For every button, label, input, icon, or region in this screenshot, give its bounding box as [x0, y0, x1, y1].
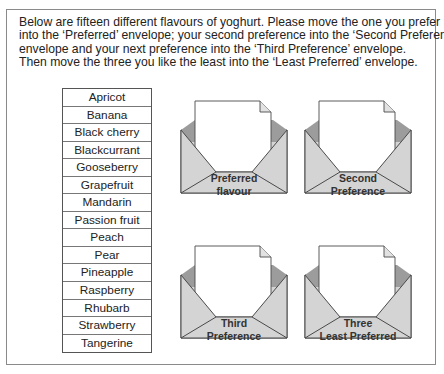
flavour-list: Apricot Banana Black cherry Blackcurrant…: [62, 88, 152, 353]
envelope-third-preference[interactable]: Third Preference: [180, 245, 288, 340]
envelope-label-line: Three: [304, 317, 412, 330]
flavour-item-raspberry[interactable]: Raspberry: [63, 282, 151, 300]
envelope-label-line: Third: [180, 317, 288, 330]
envelope-label: Second Preference: [304, 172, 412, 197]
flavour-item-peach[interactable]: Peach: [63, 229, 151, 247]
flavour-item-gooseberry[interactable]: Gooseberry: [63, 159, 151, 177]
envelope-label-line: Second: [304, 172, 412, 185]
instruction-line: Below are fifteen different flavours of …: [19, 16, 434, 29]
instruction-line: into the ‘Preferred’ envelope; your seco…: [19, 29, 434, 42]
flavour-item-apricot[interactable]: Apricot: [63, 89, 151, 107]
flavour-item-grapefruit[interactable]: Grapefruit: [63, 177, 151, 195]
envelope-label-line: Preference: [180, 330, 288, 343]
flavour-item-black-cherry[interactable]: Black cherry: [63, 124, 151, 142]
envelope-label-line: Preference: [304, 185, 412, 198]
flavour-item-tangerine[interactable]: Tangerine: [63, 335, 151, 353]
envelope-label-line: Preferred: [180, 172, 288, 185]
envelope-least-preferred[interactable]: Three Least Preferred: [304, 245, 412, 340]
instructions-text: Below are fifteen different flavours of …: [19, 16, 434, 70]
flavour-item-passion-fruit[interactable]: Passion fruit: [63, 212, 151, 230]
flavour-item-banana[interactable]: Banana: [63, 107, 151, 125]
flavour-item-pear[interactable]: Pear: [63, 247, 151, 265]
flavour-item-blackcurrant[interactable]: Blackcurrant: [63, 142, 151, 160]
flavour-item-rhubarb[interactable]: Rhubarb: [63, 300, 151, 318]
envelope-second-preference[interactable]: Second Preference: [304, 100, 412, 195]
envelope-label-line: flavour: [180, 185, 288, 198]
instruction-line: envelope and your next preference into t…: [19, 43, 434, 56]
flavour-item-strawberry[interactable]: Strawberry: [63, 317, 151, 335]
flavour-item-mandarin[interactable]: Mandarin: [63, 194, 151, 212]
envelope-label: Three Least Preferred: [304, 317, 412, 342]
flavour-item-pineapple[interactable]: Pineapple: [63, 264, 151, 282]
instruction-line: Then move the three you like the least i…: [19, 56, 434, 69]
envelope-label-line: Least Preferred: [304, 330, 412, 343]
envelope-label: Preferred flavour: [180, 172, 288, 197]
envelope-label: Third Preference: [180, 317, 288, 342]
envelope-preferred[interactable]: Preferred flavour: [180, 100, 288, 195]
